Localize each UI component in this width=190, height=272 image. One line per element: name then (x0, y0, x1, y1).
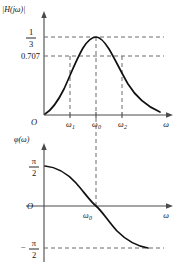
phase-response-curve (45, 166, 148, 248)
omega2-label: ω 2 (118, 120, 127, 130)
half-power-label: 0.707 (21, 51, 40, 61)
magnitude-y-axis-label: |H(jω)| (2, 5, 25, 14)
omega0-label-bottom-subscript: 0 (89, 215, 92, 221)
magnitude-panel: |H(jω)| 1 3 0.707 O ω 1 ω 0 ω 2 (2, 5, 173, 130)
phase-x-axis-arrowhead (166, 203, 173, 208)
omega1-label: ω 1 (66, 120, 75, 130)
magnitude-response-curve (45, 37, 160, 114)
half-pi-numerator: π (32, 156, 37, 166)
omega1-label-subscript: 1 (72, 124, 75, 130)
phase-panel: π 2 − π 2 O ω 0 φ(ω) ω (14, 135, 173, 262)
magnitude-x-axis-label: ω (163, 120, 169, 129)
phase-x-axis-label: ω (163, 211, 169, 220)
half-pi-denominator: 2 (32, 168, 36, 178)
phase-y-axis-label: φ(ω) (14, 135, 30, 144)
peak-value-denominator: 3 (29, 39, 33, 49)
magnitude-y-axis-arrowhead (41, 11, 46, 18)
omega0-label-top-subscript: 0 (98, 124, 101, 130)
peak-value-numerator: 1 (29, 27, 33, 37)
phase-origin-label: O (27, 201, 33, 211)
frequency-response-figure: |H(jω)| 1 3 0.707 O ω 1 ω 0 ω 2 (0, 0, 190, 272)
magnitude-origin-label: O (31, 117, 37, 127)
peak-value-fraction: 1 3 (26, 27, 36, 49)
half-pi-label: π 2 (29, 156, 39, 178)
omega2-label-subscript: 2 (124, 124, 127, 130)
minus-half-pi-denominator: 2 (32, 250, 36, 260)
minus-half-pi-sign: − (21, 242, 26, 252)
omega0-label-bottom: ω 0 (83, 211, 92, 221)
minus-half-pi-numerator: π (32, 238, 37, 248)
phase-y-axis-arrowhead (41, 143, 46, 150)
magnitude-x-axis-arrowhead (166, 112, 173, 117)
minus-half-pi-label: − π 2 (21, 238, 39, 260)
